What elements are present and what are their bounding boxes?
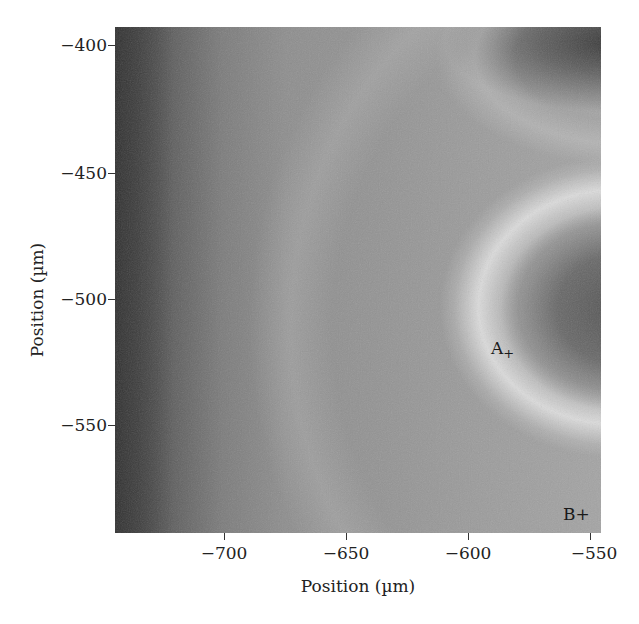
heatmap-noise [115, 27, 601, 533]
y-tick-mark [108, 173, 115, 174]
x-tick-label: −700 [201, 545, 248, 562]
x-tick-mark [346, 533, 347, 540]
y-tick-mark [108, 425, 115, 426]
heatmap-image [115, 27, 601, 533]
annotation-a-plus: A+ [491, 338, 514, 361]
x-tick-label: −550 [571, 545, 618, 562]
annotation-b-plus: B+ [563, 504, 590, 524]
annotation-a-main: A [491, 338, 503, 358]
x-tick-label: −600 [445, 545, 492, 562]
y-tick-label: −400 [60, 37, 107, 54]
x-axis-label: Position (µm) [301, 576, 415, 596]
y-axis-label: Position (µm) [27, 243, 47, 357]
y-tick-label: −500 [60, 291, 107, 308]
y-tick-label: −550 [60, 417, 107, 434]
x-tick-mark [590, 533, 591, 540]
x-tick-label: −650 [323, 545, 370, 562]
x-tick-mark [468, 533, 469, 540]
x-tick-mark [224, 533, 225, 540]
y-tick-mark [108, 299, 115, 300]
y-tick-mark [108, 45, 115, 46]
y-tick-label: −450 [60, 165, 107, 182]
annotation-a-sub: + [503, 346, 514, 361]
